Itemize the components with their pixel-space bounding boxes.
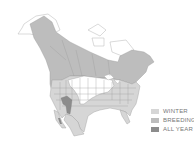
legend-label: WINTER <box>163 107 188 115</box>
all-year-swatch <box>151 127 159 132</box>
winter-swatch <box>151 109 159 114</box>
breeding-swatch <box>151 118 159 123</box>
legend-label: BREEDING <box>163 116 194 124</box>
map-legend: WINTER BREEDING ALL YEAR <box>151 107 194 134</box>
legend-item-all-year: ALL YEAR <box>151 125 194 133</box>
legend-item-winter: WINTER <box>151 107 194 115</box>
legend-item-breeding: BREEDING <box>151 116 194 124</box>
legend-label: ALL YEAR <box>163 125 193 133</box>
arctic-islands-outline <box>88 24 134 56</box>
